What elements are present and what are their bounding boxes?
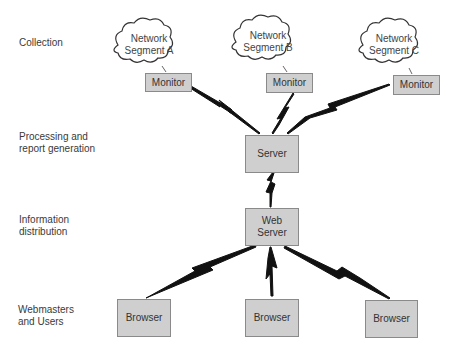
web-server-label-line: Web bbox=[257, 215, 286, 227]
connector-c bbox=[409, 68, 412, 74]
browser-label: Browser bbox=[254, 312, 291, 324]
connector-b bbox=[283, 66, 287, 72]
segment-label-line: Network bbox=[114, 33, 184, 45]
segment-label-line: Network bbox=[233, 30, 303, 42]
link-webserver-browser-2 bbox=[266, 247, 277, 296]
browser-label: Browser bbox=[126, 312, 163, 324]
monitor-label: Monitor bbox=[400, 79, 433, 91]
web-server-label-line: Server bbox=[257, 227, 286, 239]
server: Server bbox=[245, 135, 299, 173]
link-webserver-browser-1 bbox=[146, 245, 256, 298]
server-label: Server bbox=[257, 148, 286, 160]
web-server: Web Server bbox=[245, 208, 299, 246]
network-segment-c: Network Segment C bbox=[359, 33, 429, 57]
network-segment-b: Network Segment B bbox=[233, 30, 303, 54]
monitor-a: Monitor bbox=[145, 73, 192, 92]
segment-label-line: Segment A bbox=[114, 45, 184, 57]
monitor-label: Monitor bbox=[152, 77, 185, 89]
browser-label: Browser bbox=[373, 313, 410, 325]
monitor-c: Monitor bbox=[393, 75, 440, 95]
monitor-b: Monitor bbox=[266, 73, 313, 93]
clipped-caption bbox=[0, 348, 450, 354]
network-segment-a: Network Segment A bbox=[114, 33, 184, 57]
web-server-label: Web Server bbox=[257, 215, 286, 239]
link-server-webserver bbox=[266, 172, 275, 207]
browser-1: Browser bbox=[117, 299, 171, 337]
monitor-label: Monitor bbox=[273, 77, 306, 89]
segment-label-line: Segment B bbox=[233, 42, 303, 54]
link-monitor-a-server bbox=[190, 86, 260, 134]
link-webserver-browser-3 bbox=[284, 246, 390, 299]
segment-label-line: Network bbox=[359, 33, 429, 45]
segment-label-line: Segment C bbox=[359, 45, 429, 57]
browser-3: Browser bbox=[365, 300, 418, 338]
connector-a bbox=[162, 66, 166, 72]
browser-2: Browser bbox=[245, 299, 299, 337]
link-monitor-b-server bbox=[272, 93, 294, 134]
